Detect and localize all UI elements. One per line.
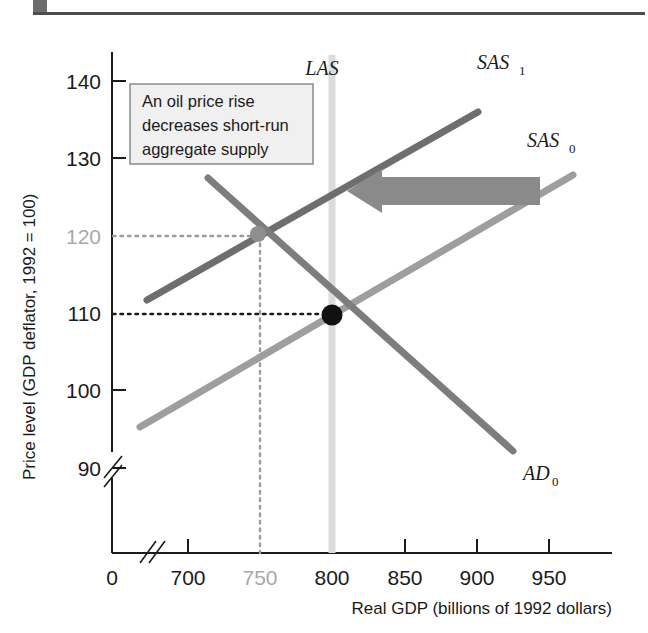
y-tick-label-140: 140 bbox=[66, 70, 101, 93]
annotation-oil-price-note: An oil price rise decreases short-run ag… bbox=[130, 84, 313, 164]
y-tick-label-90: 90 bbox=[78, 457, 101, 480]
x-axis-title: Real GDP (billions of 1992 dollars) bbox=[352, 599, 612, 618]
svg-text:SAS: SAS bbox=[527, 129, 559, 151]
curve-label-sas0: SAS 0 bbox=[527, 129, 576, 156]
shift-arrow-icon bbox=[347, 169, 540, 213]
y-tick-label-120: 120 bbox=[66, 225, 101, 248]
svg-text:AD: AD bbox=[521, 462, 550, 484]
x-tick-label-900: 900 bbox=[459, 566, 494, 589]
curve-sas0 bbox=[140, 175, 573, 427]
svg-text:SAS: SAS bbox=[477, 51, 509, 73]
x-tick-label-700: 700 bbox=[170, 566, 205, 589]
svg-text:LAS: LAS bbox=[304, 57, 338, 79]
annotation-line-2: decreases short-run bbox=[142, 116, 289, 134]
y-axis-title: Price level (GDP deflator, 1992 = 100) bbox=[20, 194, 39, 481]
y-tick-label-130: 130 bbox=[66, 147, 101, 170]
y-tick-labels: 140 130 120 110 100 90 bbox=[66, 70, 101, 480]
x-tick-label-850: 850 bbox=[387, 566, 422, 589]
curve-label-sas1: SAS 1 bbox=[477, 51, 526, 78]
as-ad-chart: 140 130 120 110 100 90 0 700 750 800 850… bbox=[0, 0, 648, 633]
curve-label-las: LAS bbox=[304, 57, 338, 79]
x-tick-label-0: 0 bbox=[106, 566, 118, 589]
x-tick-label-950: 950 bbox=[531, 566, 566, 589]
x-tick-labels: 0 700 750 800 850 900 950 bbox=[106, 566, 566, 589]
svg-text:0: 0 bbox=[569, 141, 576, 156]
annotation-line-3: aggregate supply bbox=[142, 140, 269, 158]
equilibrium-point-new bbox=[250, 226, 266, 242]
y-tick-label-110: 110 bbox=[68, 302, 101, 325]
curve-label-ad0: AD 0 bbox=[521, 462, 559, 489]
y-tick-label-100: 100 bbox=[66, 379, 101, 402]
figure-root: 140 130 120 110 100 90 0 700 750 800 850… bbox=[0, 0, 648, 633]
svg-text:1: 1 bbox=[519, 63, 526, 78]
curve-ad0 bbox=[208, 178, 513, 451]
equilibrium-point-initial bbox=[322, 305, 343, 326]
annotation-line-1: An oil price rise bbox=[142, 92, 255, 110]
x-tick-label-800: 800 bbox=[314, 566, 349, 589]
x-tick-label-750: 750 bbox=[242, 566, 277, 589]
svg-text:0: 0 bbox=[552, 474, 559, 489]
